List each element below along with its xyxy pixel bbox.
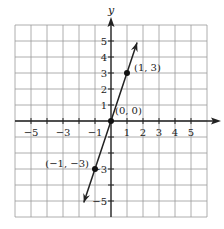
x-tick-label: −3	[56, 127, 71, 138]
point-label: (0, 0)	[115, 105, 142, 116]
x-tick-label: −1	[88, 127, 103, 138]
y-axis-label: y	[107, 4, 115, 17]
y-tick-label: 2	[101, 84, 107, 95]
y-tick-label: 3	[101, 68, 107, 79]
x-tick-label: 5	[188, 127, 194, 138]
x-tick-label: −5	[24, 127, 39, 138]
data-point	[92, 166, 98, 172]
plot-area: xy −5−3−11234554321−3−5 (1, 3)(0, 0)(−1,…	[0, 0, 224, 229]
x-tick-label: 4	[172, 127, 178, 138]
y-tick-label: −5	[92, 196, 107, 207]
point-label: (1, 3)	[134, 62, 161, 73]
y-tick-label: 5	[101, 36, 107, 47]
data-point	[108, 118, 114, 124]
x-tick-label: 1	[124, 127, 130, 138]
data-point	[124, 70, 130, 76]
x-tick-label: 3	[156, 127, 162, 138]
coordinate-plane-graph: xy −5−3−11234554321−3−5 (1, 3)(0, 0)(−1,…	[0, 0, 224, 229]
y-tick-label: 1	[101, 100, 107, 111]
point-label: (−1, −3)	[45, 158, 89, 169]
y-tick-label: 4	[101, 52, 107, 63]
x-tick-label: 2	[140, 127, 146, 138]
